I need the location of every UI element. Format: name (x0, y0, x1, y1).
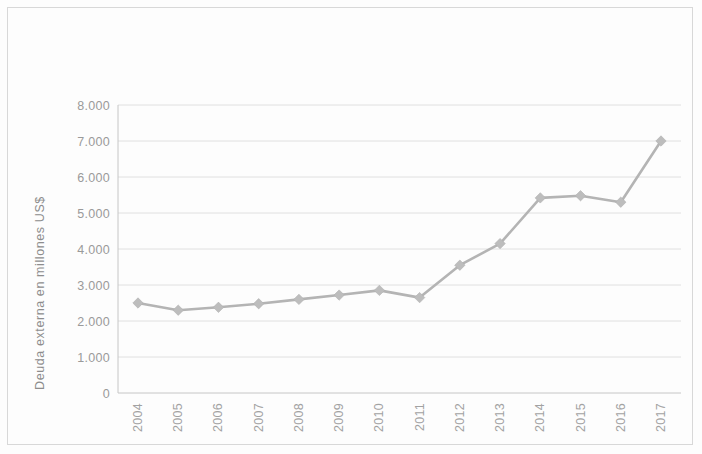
data-point-marker (374, 285, 384, 295)
x-tick-label: 2005 (171, 403, 185, 432)
y-tick-label: 7.000 (77, 135, 110, 149)
data-point-marker (294, 294, 304, 304)
gridlines (118, 105, 681, 357)
x-tick-label: 2015 (574, 403, 588, 432)
x-tick-label: 2012 (453, 403, 467, 432)
y-tick-label: 0 (103, 387, 110, 401)
y-axis-tick-labels: 8.000 7.000 6.000 5.000 4.000 3.000 2.00… (77, 99, 110, 401)
data-point-marker (173, 305, 183, 315)
series-markers (133, 136, 666, 316)
data-point-marker (213, 302, 223, 312)
y-tick-label: 2.000 (77, 315, 110, 329)
x-tick-label: 2007 (252, 403, 266, 432)
x-tick-label: 2017 (654, 403, 668, 432)
data-point-marker (575, 191, 585, 201)
x-tick-label: 2008 (292, 403, 306, 432)
x-tick-label: 2004 (131, 403, 145, 432)
x-tick-label: 2009 (332, 403, 346, 432)
x-axis-tick-labels: 2004200520062007200820092010201120122013… (131, 403, 668, 432)
y-tick-label: 4.000 (77, 243, 110, 257)
y-tick-label: 3.000 (77, 279, 110, 293)
y-tick-label: 5.000 (77, 207, 110, 221)
data-point-marker (133, 298, 143, 308)
y-axis-title: Deuda externa en millones US$ (33, 196, 47, 390)
y-tick-label: 1.000 (77, 351, 110, 365)
data-point-marker (253, 299, 263, 309)
chart-figure: Deuda externa en millones US$ 8.000 7.00… (0, 0, 702, 454)
data-point-marker (334, 290, 344, 300)
x-tick-label: 2010 (372, 403, 386, 432)
x-tick-label: 2011 (413, 403, 427, 431)
x-tick-label: 2013 (493, 403, 507, 432)
y-tick-label: 8.000 (77, 99, 110, 113)
x-tick-label: 2014 (533, 403, 547, 432)
line-chart: Deuda externa en millones US$ 8.000 7.00… (0, 0, 702, 454)
y-tick-label: 6.000 (77, 171, 110, 185)
x-tick-label: 2016 (614, 403, 628, 432)
x-tick-label: 2006 (211, 403, 225, 432)
